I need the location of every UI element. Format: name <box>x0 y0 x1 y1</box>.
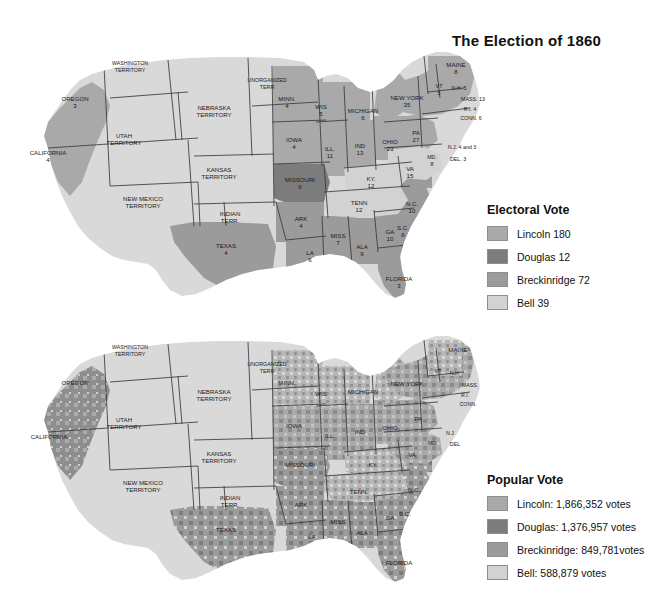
map-label-wis: WIS <box>315 390 327 397</box>
legend-swatch-breckinridge <box>487 272 508 287</box>
electoral-vote-legend: Electoral Vote Lincoln 180Douglas 12Brec… <box>487 203 652 318</box>
map-label-mass: MASS. <box>462 382 478 388</box>
map-label-washington-territory: WASHINGTONTERRITORY <box>112 344 148 357</box>
map-label-mass: MASS. 13 <box>461 96 485 102</box>
legend-row-breckinridge: Breckinridge: 849,781votes <box>487 542 652 557</box>
popular-vote-map: WASHINGTONTERRITORYOREGONCALIFORNIAUTAHT… <box>18 320 488 600</box>
map-label-oregon: OREGON <box>61 379 88 386</box>
map-label-florida: FLORIDA <box>386 559 413 566</box>
legend-label-breckinridge: Breckinridge: 849,781votes <box>517 544 644 556</box>
map-label-maine: MAINE <box>448 346 467 353</box>
map-label-ri: R.I. <box>461 392 469 398</box>
legend-row-douglas: Douglas 12 <box>487 249 652 264</box>
map-label-ind: IND <box>355 428 366 435</box>
map-label-nj: N.J <box>446 430 454 436</box>
legend-swatch-breckinridge <box>487 542 508 557</box>
legend-swatch-lincoln <box>487 226 508 241</box>
map-label-conn: CONN. <box>459 401 476 407</box>
map-label-indian-terr: INDIANTERR. <box>220 494 241 508</box>
map-label-nebraska-territory: NEBRASKATERRITORY <box>197 104 232 118</box>
map-label-del: DEL <box>450 441 460 447</box>
map-label-sc: S.C. <box>399 510 411 517</box>
legend-swatch-bell <box>487 295 508 310</box>
map-label-indian-terr: INDIANTERR. <box>220 210 241 224</box>
map-label-del: DEL. 3 <box>450 156 466 162</box>
legend-heading: Electoral Vote <box>487 203 652 217</box>
map-label-nebraska-territory: NEBRASKATERRITORY <box>197 388 232 402</box>
map-label-new-mexico-territory: NEW MEXICOTERRITORY <box>123 479 163 493</box>
election-map-figure: The Election of 1860 <box>0 0 657 611</box>
legend-row-douglas: Douglas: 1,376,957 votes <box>487 519 652 534</box>
legend-row-lincoln: Lincoln 180 <box>487 226 652 241</box>
legend-label-lincoln: Lincoln 180 <box>517 228 571 240</box>
legend-row-breckinridge: Breckinridge 72 <box>487 272 652 287</box>
legend-label-bell: Bell 39 <box>517 297 549 309</box>
map-label-va: VA <box>408 451 417 458</box>
map-label-nh: N.H. 5 <box>451 85 466 91</box>
legend-label-douglas: Douglas 12 <box>517 251 570 263</box>
map-label-miss: MISS <box>331 518 346 525</box>
map-label-kansas-territory: KANSASTERRITORY <box>202 166 237 180</box>
map-label-nc: N.C. <box>408 486 420 493</box>
legend-heading: Popular Vote <box>487 473 652 487</box>
map-label-ky: KY. <box>368 461 377 468</box>
map-label-ill: ILL. <box>325 432 335 439</box>
map-label-ohio: OHIO <box>382 424 398 431</box>
map-label-vt: VT <box>435 368 443 374</box>
map-label-ark: ARK <box>295 501 308 508</box>
legend-label-breckinridge: Breckinridge 72 <box>517 274 590 286</box>
legend-label-douglas: Douglas: 1,376,957 votes <box>517 521 636 533</box>
legend-swatch-douglas <box>487 249 508 264</box>
map-label-tenn: TENN. <box>350 488 369 495</box>
map-label-michigan: MICHIGAN <box>348 388 378 395</box>
legend-label-lincoln: Lincoln: 1,866,352 votes <box>517 498 631 510</box>
legend-swatch-douglas <box>487 519 508 534</box>
map-label-ri: R.I. 4 <box>464 106 477 112</box>
legend-row-bell: Bell: 588,879 votes <box>487 565 652 580</box>
map-label-nj: N.J. 4 and 3 <box>448 144 477 150</box>
map-label-ga: GA <box>386 514 396 521</box>
map-label-washington-territory: WASHINGTONTERRITORY <box>112 60 148 73</box>
map-label-iowa: IOWA <box>286 422 303 429</box>
popular-vote-legend: Popular Vote Lincoln: 1,866,352 votesDou… <box>487 473 652 588</box>
map-label-kansas-territory: KANSASTERRITORY <box>202 450 237 464</box>
electoral-vote-map: WASHINGTONTERRITORYOREGON3CALIFORNIA4UTA… <box>18 36 488 316</box>
map-label-california: CALIFORNIA <box>31 433 69 440</box>
legend-label-bell: Bell: 588,879 votes <box>517 567 606 579</box>
map-label-missouri: MISSOURI <box>285 461 315 468</box>
map-label-ala: ALA <box>356 529 368 536</box>
map-label-la: LA <box>308 533 316 540</box>
map-label-minn: MINN. <box>278 379 296 386</box>
legend-swatch-lincoln <box>487 496 508 511</box>
map-label-conn: CONN. 6 <box>460 115 482 121</box>
map-label-new-york: NEW YORK <box>390 380 423 387</box>
map-label-md: MD <box>428 440 436 446</box>
legend-row-lincoln: Lincoln: 1,866,352 votes <box>487 496 652 511</box>
legend-swatch-bell <box>487 565 508 580</box>
map-label-new-mexico-territory: NEW MEXICOTERRITORY <box>123 195 163 209</box>
map-label-texas: TEXAS <box>216 526 236 533</box>
douglas-states-electoral <box>274 164 330 206</box>
map-label-nh: N.H. <box>450 370 461 376</box>
map-label-pa: PA <box>414 415 423 422</box>
legend-row-bell: Bell 39 <box>487 295 652 310</box>
